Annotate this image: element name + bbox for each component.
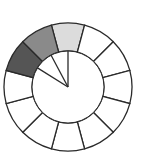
segmented-ring-diagram bbox=[0, 0, 154, 159]
